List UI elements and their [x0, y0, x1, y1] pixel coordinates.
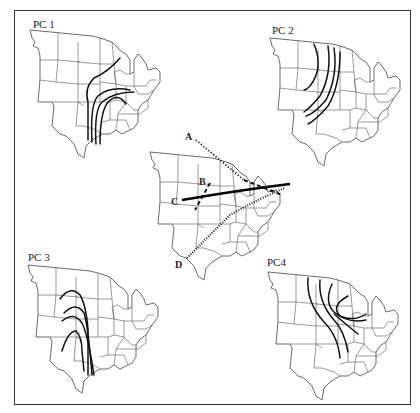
map-pc2 [270, 38, 400, 166]
map-center [150, 152, 280, 280]
maps-svg [0, 0, 420, 413]
map-pc1 [30, 30, 160, 158]
map-pc3 [28, 265, 158, 393]
map-pc4 [268, 272, 398, 400]
